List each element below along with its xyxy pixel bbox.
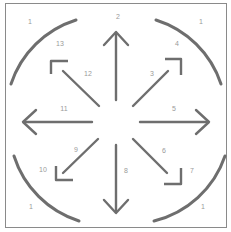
arrow-right-icon [140, 110, 209, 134]
arrow-down-icon [104, 145, 128, 213]
arrow-left-icon [23, 110, 92, 134]
label-corner-bl: 1 [29, 203, 33, 210]
label-down-left-corner: 10 [39, 166, 47, 173]
label-up-right-diag: 3 [150, 70, 154, 77]
label-up-left-diag: 12 [84, 70, 92, 77]
label-corner-tl: 1 [28, 18, 32, 25]
bracket-down-right-icon [164, 168, 181, 184]
label-up-left-corner: 13 [56, 40, 64, 47]
diagonal-up-left [63, 71, 99, 106]
label-down-right-diag: 6 [162, 147, 166, 154]
arrow-up-icon [104, 32, 128, 100]
label-up: 2 [116, 13, 120, 20]
label-corner-tr: 1 [199, 18, 203, 25]
label-corner-br: 1 [201, 203, 205, 210]
diagonal-down-left [63, 139, 98, 173]
label-up-right-corner: 4 [175, 40, 179, 47]
label-right: 5 [172, 105, 176, 112]
diagonal-down-right [133, 139, 167, 173]
label-down-left-diag: 9 [74, 146, 78, 153]
label-down: 8 [124, 167, 128, 174]
label-left: 11 [60, 105, 67, 112]
direction-diagram [0, 0, 231, 232]
label-down-right-corner: 7 [190, 167, 194, 174]
